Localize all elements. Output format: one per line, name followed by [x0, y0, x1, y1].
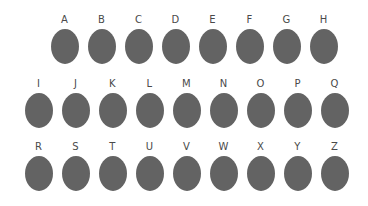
letter-ellipse-cell[interactable]: N — [205, 78, 242, 128]
ellipse-label: F — [247, 14, 253, 25]
gray-ellipse-icon[interactable] — [136, 93, 164, 128]
letter-ellipse-cell[interactable]: A — [46, 14, 83, 64]
letter-ellipse-cell[interactable]: I — [20, 78, 57, 128]
letter-ellipse-cell[interactable]: U — [131, 141, 168, 191]
gray-ellipse-icon[interactable] — [247, 93, 275, 128]
letter-ellipse-cell[interactable]: V — [168, 141, 205, 191]
letter-ellipse-cell[interactable]: F — [231, 14, 268, 64]
letter-ellipse-cell[interactable]: K — [94, 78, 131, 128]
ellipse-label: W — [218, 141, 228, 152]
gray-ellipse-icon[interactable] — [321, 156, 349, 191]
letter-ellipse-cell[interactable]: P — [279, 78, 316, 128]
ellipse-label: U — [146, 141, 154, 152]
gray-ellipse-icon[interactable] — [25, 93, 53, 128]
letter-ellipse-cell[interactable]: Z — [316, 141, 353, 191]
gray-ellipse-icon[interactable] — [136, 156, 164, 191]
letter-ellipse-cell[interactable]: R — [20, 141, 57, 191]
ellipse-label: I — [37, 78, 40, 89]
gray-ellipse-icon[interactable] — [236, 29, 264, 64]
ellipse-label: L — [147, 78, 153, 89]
ellipse-label: M — [182, 78, 191, 89]
gray-ellipse-icon[interactable] — [99, 93, 127, 128]
gray-ellipse-icon[interactable] — [284, 156, 312, 191]
ellipse-label: X — [257, 141, 264, 152]
letter-ellipse-cell[interactable]: B — [83, 14, 120, 64]
letter-ellipse-cell[interactable]: Y — [279, 141, 316, 191]
letter-ellipse-cell[interactable]: O — [242, 78, 279, 128]
gray-ellipse-icon[interactable] — [162, 29, 190, 64]
ellipse-label: G — [283, 14, 291, 25]
gray-ellipse-icon[interactable] — [210, 93, 238, 128]
ellipse-grid-canvas: ABCDEFGHIJKLMNOPQRSTUVWXYZ — [0, 0, 368, 206]
gray-ellipse-icon[interactable] — [173, 93, 201, 128]
letter-ellipse-cell[interactable]: T — [94, 141, 131, 191]
ellipse-label: R — [35, 141, 42, 152]
gray-ellipse-icon[interactable] — [62, 93, 90, 128]
letter-ellipse-cell[interactable]: L — [131, 78, 168, 128]
gray-ellipse-icon[interactable] — [173, 156, 201, 191]
ellipse-label: O — [256, 78, 264, 89]
ellipse-row: RSTUVWXYZ — [20, 141, 353, 191]
gray-ellipse-icon[interactable] — [99, 156, 127, 191]
ellipse-row: ABCDEFGH — [46, 14, 342, 64]
gray-ellipse-icon[interactable] — [51, 29, 79, 64]
ellipse-label: C — [135, 14, 142, 25]
gray-ellipse-icon[interactable] — [125, 29, 153, 64]
letter-ellipse-cell[interactable]: W — [205, 141, 242, 191]
gray-ellipse-icon[interactable] — [62, 156, 90, 191]
ellipse-label: S — [72, 141, 79, 152]
gray-ellipse-icon[interactable] — [273, 29, 301, 64]
letter-ellipse-cell[interactable]: G — [268, 14, 305, 64]
gray-ellipse-icon[interactable] — [210, 156, 238, 191]
gray-ellipse-icon[interactable] — [88, 29, 116, 64]
ellipse-label: N — [220, 78, 228, 89]
ellipse-label: T — [109, 141, 115, 152]
ellipse-label: Y — [294, 141, 300, 152]
gray-ellipse-icon[interactable] — [25, 156, 53, 191]
ellipse-label: V — [183, 141, 190, 152]
ellipse-label: B — [98, 14, 105, 25]
ellipse-label: A — [61, 14, 68, 25]
gray-ellipse-icon[interactable] — [199, 29, 227, 64]
ellipse-label: E — [209, 14, 216, 25]
letter-ellipse-cell[interactable]: C — [120, 14, 157, 64]
ellipse-label: H — [320, 14, 328, 25]
letter-ellipse-cell[interactable]: J — [57, 78, 94, 128]
gray-ellipse-icon[interactable] — [321, 93, 349, 128]
letter-ellipse-cell[interactable]: H — [305, 14, 342, 64]
ellipse-label: P — [294, 78, 300, 89]
gray-ellipse-icon[interactable] — [284, 93, 312, 128]
ellipse-label: J — [74, 78, 77, 89]
ellipse-row: IJKLMNOPQ — [20, 78, 353, 128]
letter-ellipse-cell[interactable]: D — [157, 14, 194, 64]
ellipse-label: Z — [331, 141, 338, 152]
letter-ellipse-cell[interactable]: M — [168, 78, 205, 128]
letter-ellipse-cell[interactable]: X — [242, 141, 279, 191]
gray-ellipse-icon[interactable] — [247, 156, 275, 191]
ellipse-label: D — [172, 14, 180, 25]
letter-ellipse-cell[interactable]: S — [57, 141, 94, 191]
gray-ellipse-icon[interactable] — [310, 29, 338, 64]
letter-ellipse-cell[interactable]: E — [194, 14, 231, 64]
ellipse-label: K — [109, 78, 116, 89]
letter-ellipse-cell[interactable]: Q — [316, 78, 353, 128]
ellipse-label: Q — [330, 78, 338, 89]
